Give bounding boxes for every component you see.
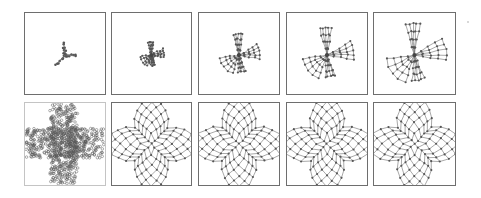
panel-plot xyxy=(199,103,279,185)
random-node-cloud xyxy=(25,103,105,185)
mesh-nodes xyxy=(112,103,191,185)
panel-bottom-2 xyxy=(111,102,192,186)
mesh-nodes xyxy=(374,103,455,185)
panel-top-4 xyxy=(286,12,368,95)
panel-bottom-5 xyxy=(373,102,456,186)
panel-top-2 xyxy=(111,12,192,95)
panel-plot xyxy=(287,103,367,185)
panel-plot xyxy=(112,103,191,185)
panel-plot xyxy=(374,103,455,185)
panel-plot xyxy=(112,13,191,94)
panel-plot xyxy=(199,13,279,94)
panel-top-1 xyxy=(24,12,106,95)
panel-plot xyxy=(287,13,367,94)
panel-plot xyxy=(25,103,105,185)
mesh-nodes xyxy=(302,26,355,79)
panel-bottom-1 xyxy=(24,102,106,186)
mesh-nodes xyxy=(199,103,279,185)
mesh-nodes xyxy=(139,41,165,67)
panel-bottom-4 xyxy=(286,102,368,186)
mesh-nodes xyxy=(287,103,367,185)
panel-plot xyxy=(374,13,455,94)
panel-plot xyxy=(25,13,105,94)
panel-bottom-3 xyxy=(198,102,280,186)
collapsed-mesh xyxy=(54,42,77,66)
panel-top-3 xyxy=(198,12,280,95)
mesh-edges xyxy=(387,23,447,82)
panel-top-5 xyxy=(373,12,456,95)
image-speck xyxy=(467,21,469,23)
